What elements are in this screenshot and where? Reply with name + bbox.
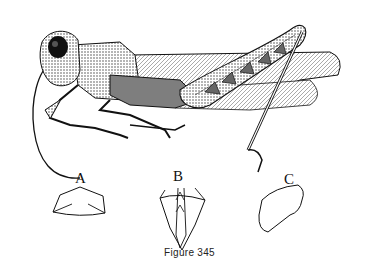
panel-a-shape	[53, 187, 105, 215]
panel-c-shape	[259, 185, 303, 232]
panel-label-a: A	[75, 170, 86, 187]
eye	[48, 36, 68, 58]
panel-label-b: B	[173, 168, 183, 185]
figure-caption: Figure 345	[0, 247, 379, 258]
grasshopper-illustration	[0, 0, 379, 274]
panel-label-c: C	[284, 171, 294, 188]
